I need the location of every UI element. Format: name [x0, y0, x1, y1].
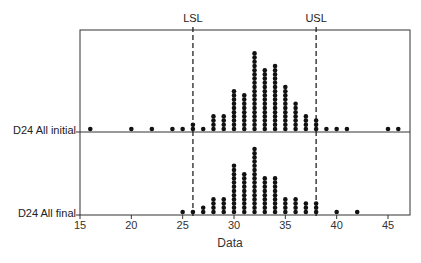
- usl-label: USL: [305, 12, 326, 24]
- row-label-initial: D24 All initial: [0, 124, 76, 136]
- x-tick-label: 25: [177, 219, 189, 231]
- x-tick-label: 30: [228, 219, 240, 231]
- series-initial-dots: [88, 51, 401, 131]
- x-axis-label: Data: [217, 236, 242, 250]
- x-tick-label: 35: [279, 219, 291, 231]
- lsl-label: LSL: [183, 12, 203, 24]
- x-tick-label: 15: [74, 219, 86, 231]
- x-tick-label: 20: [125, 219, 137, 231]
- x-tick-label: 45: [382, 219, 394, 231]
- series-final-dots: [180, 147, 359, 215]
- x-tick-label: 40: [331, 219, 343, 231]
- row-label-final: D24 All final: [0, 207, 76, 219]
